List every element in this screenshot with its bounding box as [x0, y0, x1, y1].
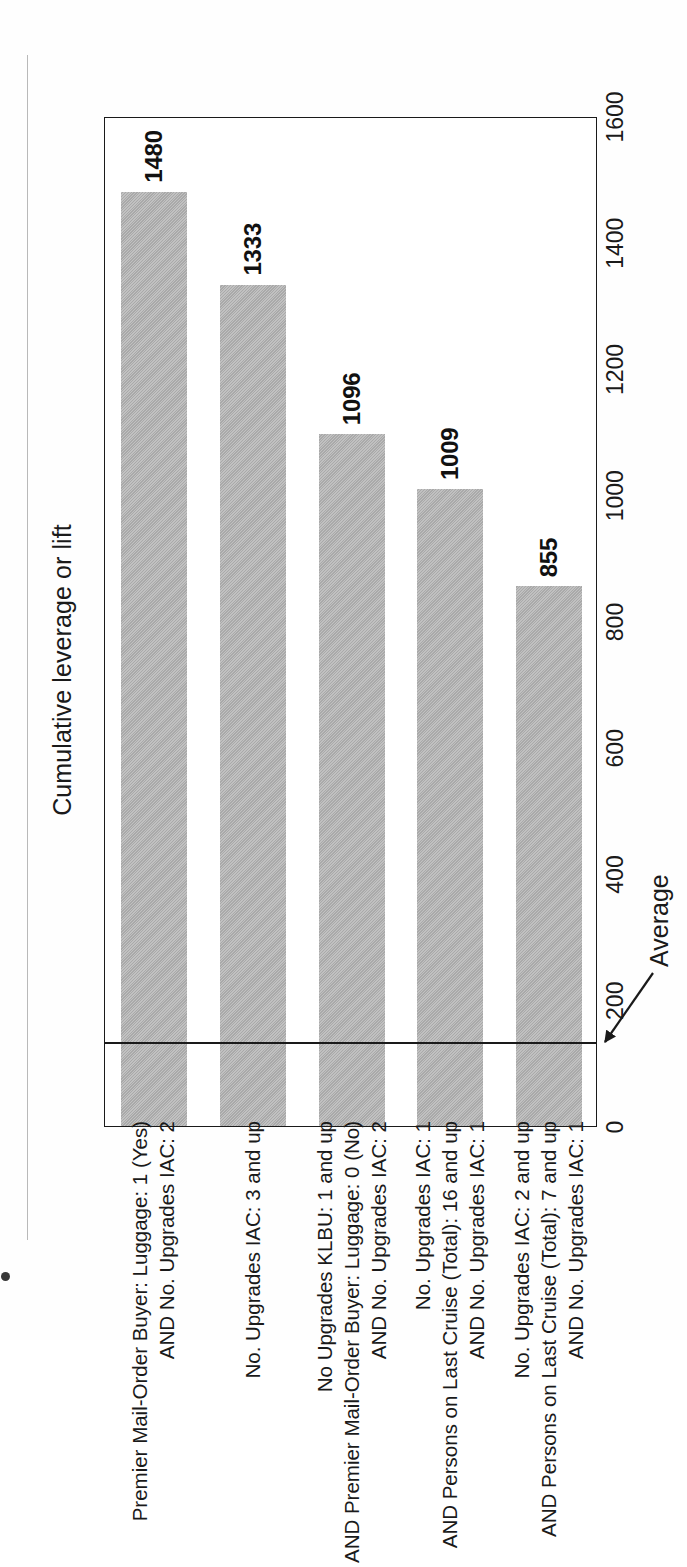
average-annotation-label: Average	[645, 874, 674, 967]
category-label: No Upgrades KLBU: 1 and up AND Premier M…	[310, 1121, 391, 1567]
bar	[121, 192, 187, 1126]
x-axis-tick-label: 1200	[602, 344, 629, 395]
bar-row: 1480	[121, 118, 187, 1126]
axis-title: Cumulative leverage or lift	[48, 35, 77, 1305]
x-axis-tick-label: 1400	[602, 218, 629, 269]
x-axis-tick-label: 600	[602, 729, 629, 767]
bar-row: 1009	[417, 118, 483, 1126]
plot-area: 1480133310961009855	[104, 117, 597, 1127]
bar-value-label: 1096	[337, 373, 365, 426]
bar-row: 1096	[318, 118, 384, 1126]
x-axis-tick-label: 1600	[602, 91, 629, 142]
bar	[417, 489, 483, 1126]
rotated-figure-wrapper: Cumulative leverage or lift 148013331096…	[44, 35, 644, 1305]
bar-value-label: 1480	[140, 130, 168, 183]
average-reference-line	[105, 1042, 596, 1044]
bar-chart-figure: Cumulative leverage or lift 148013331096…	[44, 35, 644, 1305]
bar-row: 855	[515, 118, 581, 1126]
page-speck-artifact	[1, 1272, 10, 1281]
bar	[219, 285, 285, 1126]
bar-value-label: 1009	[436, 427, 464, 480]
bar-row: 1333	[219, 118, 285, 1126]
bar	[515, 586, 581, 1126]
category-label: Premier Mail-Order Buyer: Luggage: 1 (Ye…	[126, 1121, 180, 1567]
category-label: No. Upgrades IAC: 1 AND Persons on Last …	[408, 1121, 489, 1567]
category-label: No. Upgrades IAC: 2 and up AND Persons o…	[507, 1121, 588, 1567]
bar-value-label: 855	[534, 538, 562, 577]
bars-container: 1480133310961009855	[105, 118, 596, 1126]
bar-value-label: 1333	[238, 223, 266, 276]
bar	[318, 434, 384, 1126]
x-axis-tick-label: 200	[602, 982, 629, 1020]
x-axis-tick-label: 400	[602, 855, 629, 893]
x-axis-tick-label: 0	[602, 1121, 629, 1134]
page-edge-line	[27, 55, 28, 1240]
category-label: No. Upgrades IAC: 3 and up	[238, 1121, 265, 1567]
x-axis-tick-label: 800	[602, 603, 629, 641]
x-axis-tick-label: 1000	[602, 470, 629, 521]
